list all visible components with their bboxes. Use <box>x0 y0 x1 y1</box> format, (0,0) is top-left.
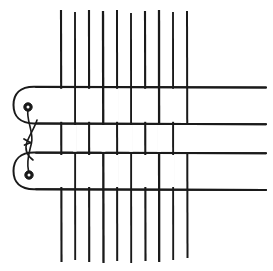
weave-gap-w7-c <box>143 155 147 187</box>
heddle-eye-upper-hole <box>27 106 30 109</box>
weave-gap-w6-a <box>129 125 132 152</box>
weft-line-3-overlay <box>36 153 266 154</box>
warp-thread-1 <box>61 10 62 262</box>
weave-gap-w3-b <box>87 89 91 122</box>
weave-gap-w1-c <box>59 155 63 187</box>
weave-overlap-mask-group <box>59 89 189 187</box>
weave-gap-w2-a <box>73 125 76 152</box>
weave-gap-w10-a <box>186 125 189 152</box>
warp-thread-group <box>61 10 188 263</box>
weft-thread-overlay-group <box>36 87 266 190</box>
tie-cord-group <box>24 110 37 171</box>
weave-canvas <box>0 0 273 271</box>
weft-loop-lower <box>14 153 267 190</box>
weft-line-2-overlay <box>36 123 266 124</box>
weft-loop-upper <box>14 87 267 124</box>
weave-gap-w9-b <box>171 89 174 122</box>
weave-gap-w5-c <box>115 155 118 187</box>
weave-gap-w1-b <box>59 89 63 122</box>
weave-diagram <box>0 0 273 271</box>
heddle-eye-lower-hole <box>28 174 31 177</box>
weft-line-1-overlay <box>36 87 266 88</box>
weave-gap-w5-b <box>115 89 118 122</box>
weft-thread-group <box>14 87 267 190</box>
weave-gap-w4-a <box>102 125 106 152</box>
warp-thread-7 <box>145 11 146 261</box>
weave-gap-w8-a <box>157 125 161 152</box>
weft-line-4-overlay <box>36 189 266 190</box>
weave-gap-w7-b <box>143 89 147 122</box>
weave-gap-w9-c <box>171 155 174 187</box>
weave-gap-w3-c <box>87 155 91 187</box>
